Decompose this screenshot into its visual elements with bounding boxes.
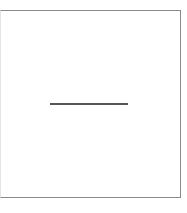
clipped-caption <box>60 206 185 213</box>
horizontal-line <box>50 103 128 105</box>
